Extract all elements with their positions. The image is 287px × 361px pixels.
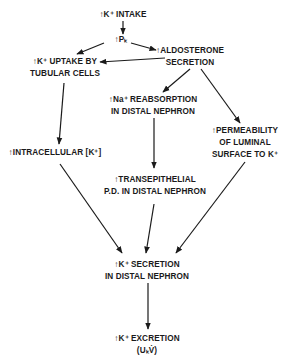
node-label: IN DISTAL NEPHRON [101,271,193,283]
node-label: OF LUMINAL [206,137,284,149]
node-label: ↑K⁺ INTAKE [88,9,158,21]
arrow-pk-to-uptake [77,43,104,54]
node-label: SECRETION [155,57,225,69]
node-label: ↑Na⁺ REABSORPTION [107,94,199,106]
node-permeability: ↑PERMEABILITY OF LUMINAL SURFACE TO K⁺ [206,125,284,161]
node-label: (UₖV̇) [108,345,186,357]
node-label: ↑PERMEABILITY [206,125,284,137]
node-pk: ↑Pₖ [106,34,136,46]
node-k-intake: ↑K⁺ INTAKE [88,9,158,21]
arrow-transepithelial-to-secretion [146,204,154,253]
arrow-aldosterone-to-na [163,69,190,92]
node-label: ↑Pₖ [106,34,136,46]
node-label: ↑K⁺ EXCRETION [108,333,186,345]
node-label: ↑ALDOSTERONE [155,45,225,57]
node-label: ↑INTRACELLULAR [K⁺] [6,147,104,159]
node-label: P.D. IN DISTAL NEPHRON [99,186,211,198]
potassium-regulation-flow-diagram: ↑K⁺ INTAKE ↑Pₖ ↑ALDOSTERONE SECRETION ↑K… [0,0,287,361]
node-k-uptake: ↑K⁺ UPTAKE BY TUBULAR CELLS [28,56,102,80]
node-label: ↑K⁺ SECRETION [101,259,193,271]
node-label: ↑TRANSEPITHELIAL [99,174,211,186]
node-label: IN DISTAL NEPHRON [107,106,199,118]
node-aldosterone: ↑ALDOSTERONE SECRETION [155,45,225,69]
node-k-secretion: ↑K⁺ SECRETION IN DISTAL NEPHRON [101,259,193,283]
arrow-uptake-to-intracellular [59,83,64,144]
node-na-reabsorption: ↑Na⁺ REABSORPTION IN DISTAL NEPHRON [107,94,199,118]
node-label: ↑K⁺ UPTAKE BY [28,56,102,68]
node-k-excretion: ↑K⁺ EXCRETION (UₖV̇) [108,333,186,357]
node-label: SURFACE TO K⁺ [206,149,284,161]
node-intracellular-k: ↑INTRACELLULAR [K⁺] [6,147,104,159]
arrow-aldosterone-to-permeability [201,69,240,123]
node-label: TUBULAR CELLS [28,68,102,80]
node-transepithelial: ↑TRANSEPITHELIAL P.D. IN DISTAL NEPHRON [99,174,211,198]
